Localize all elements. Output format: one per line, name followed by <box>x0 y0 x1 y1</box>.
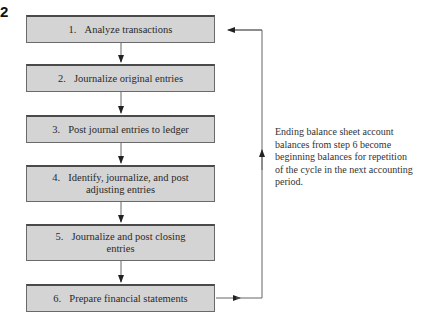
step-number: 1. <box>69 24 85 36</box>
step-label: Identify, journalize, and post <box>68 172 188 183</box>
step-1-box: 1.Analyze transactions <box>26 15 215 43</box>
step-3-box: 3.Post journal entries to ledger <box>26 115 215 143</box>
step-number: 6. <box>53 293 69 305</box>
step-2-box: 2.Journalize original entries <box>26 64 215 92</box>
step-label: Analyze transactions <box>85 24 173 35</box>
step-label-cont: entries <box>55 243 185 255</box>
step-number: 3. <box>52 124 68 136</box>
step-label: Prepare financial statements <box>69 293 187 304</box>
step-label: Journalize and post closing <box>71 231 185 242</box>
step-number: 2. <box>58 73 74 85</box>
step-number: 5. <box>55 231 71 243</box>
feedback-loop-line <box>230 30 262 298</box>
step-label-cont: adjusting entries <box>52 184 188 196</box>
step-number: 4. <box>52 172 68 184</box>
step-6-box: 6.Prepare financial statements <box>26 284 215 312</box>
step-4-box: 4.Identify, journalize, and postadjustin… <box>26 165 215 202</box>
step-5-box: 5.Journalize and post closingentries <box>26 224 215 261</box>
cycle-note: Ending balance sheet account balances fr… <box>275 126 415 189</box>
step-label: Post journal entries to ledger <box>68 124 189 135</box>
step-label: Journalize original entries <box>74 73 183 84</box>
